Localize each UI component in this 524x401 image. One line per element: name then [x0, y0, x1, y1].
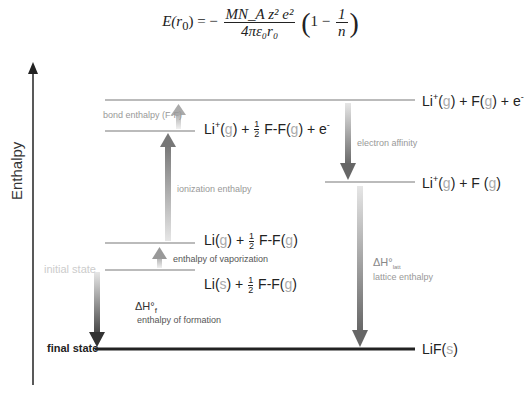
half-fraction: 12 — [248, 276, 253, 295]
lif-text: LiF( — [422, 341, 446, 357]
sub-f: f — [155, 306, 157, 315]
initial-state-label: initial state — [44, 263, 96, 275]
state-g: g — [225, 121, 233, 137]
formation-label: enthalpy of formation — [137, 315, 221, 325]
half-fraction: 12 — [249, 232, 254, 251]
species-li-gas: Li(g) + 12 F-F(g) — [204, 232, 298, 251]
li-text: Li( — [204, 276, 220, 292]
species-top: Li+(g) + F(g) + e- — [422, 92, 524, 109]
li-text: Li — [204, 121, 215, 137]
ionization-enthalpy-label: ionization enthalpy — [177, 184, 252, 194]
li-text: Li( — [204, 232, 220, 248]
species-initial: Li(s) + 12 F-F(g) — [204, 276, 297, 295]
close: ) — [293, 232, 298, 248]
close: ) — [453, 341, 458, 357]
half-den: 2 — [249, 242, 254, 251]
half-den: 2 — [254, 130, 259, 139]
lattice-symbol: ΔH°latt — [373, 256, 401, 270]
ionization-arrow-head — [160, 133, 176, 147]
formation-symbol: ΔH°f — [135, 300, 157, 315]
lattice-arrow-head — [352, 330, 368, 347]
close: ) — [292, 276, 297, 292]
electron-affinity-label: electron affinity — [357, 138, 417, 148]
vaporization-label: enthalpy of vaporization — [173, 254, 268, 264]
plus-f: ) + F( — [451, 93, 485, 109]
state-g: g — [443, 93, 451, 109]
half-fraction: 12 — [254, 120, 259, 139]
e-charge: - — [521, 92, 524, 102]
sub-latt: latt — [393, 264, 401, 270]
enthalpy-axis — [28, 62, 38, 385]
state-s: s — [220, 276, 227, 292]
state-g: g — [488, 175, 496, 191]
plus-e: ) + e — [492, 93, 520, 109]
state-g: g — [443, 175, 451, 191]
li-text: Li — [422, 175, 433, 191]
species-ions-gas: Li+(g) + F (g) — [422, 174, 501, 191]
e-charge: - — [327, 120, 330, 130]
ff-text: F-F( — [258, 276, 284, 292]
plus: ) + — [227, 276, 248, 292]
affinity-arrow-head — [340, 163, 356, 180]
ff-text: F-F( — [259, 232, 285, 248]
final-state-label: final state — [47, 342, 98, 354]
vaporization-arrow-head — [152, 247, 167, 259]
plus-e: ) + e — [298, 121, 326, 137]
axis-label-text: Enthalpy — [8, 142, 25, 200]
plus-f: ) + F ( — [451, 175, 489, 191]
species-ionized: Li+(g) + 12 F-F(g) + e- — [204, 120, 330, 139]
lattice-enthalpy-label: lattice enthalpy — [373, 272, 433, 282]
bond-enthalpy-label: bond enthalpy (F-F) — [103, 110, 182, 120]
half-den: 2 — [248, 286, 253, 295]
charge: + — [433, 92, 438, 102]
charge: + — [215, 120, 220, 130]
enthalpy-axis-label: Enthalpy — [8, 120, 28, 200]
close: ) — [496, 175, 501, 191]
state-g: g — [285, 232, 293, 248]
delta-h: ΔH° — [373, 256, 393, 268]
charge: + — [433, 174, 438, 184]
plus: ) + — [227, 232, 248, 248]
ff-text: F-F( — [264, 121, 290, 137]
species-final: LiF(s) — [422, 341, 458, 357]
plus: ) + — [233, 121, 254, 137]
li-text: Li — [422, 93, 433, 109]
delta-h: ΔH° — [135, 300, 155, 312]
